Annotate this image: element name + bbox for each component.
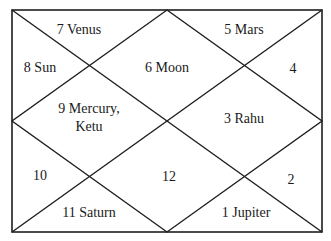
house-10-label: 10	[33, 167, 47, 184]
house-11-label: 11 Saturn	[62, 204, 116, 221]
house-1-label: 1 Jupiter	[222, 204, 271, 221]
house-12-label: 12	[162, 168, 176, 185]
house-9-label-line1: 9 Mercury,	[58, 100, 119, 117]
house-7-label: 7 Venus	[57, 21, 101, 38]
horoscope-chart: 7 Venus 5 Mars 8 Sun 6 Moon 4 9 Mercury,…	[0, 0, 331, 241]
house-4-label: 4	[290, 60, 297, 77]
house-2-label: 2	[288, 171, 295, 188]
house-3-label: 3 Rahu	[224, 110, 264, 127]
house-9-label-line2: Ketu	[75, 118, 102, 135]
house-8-label: 8 Sun	[24, 59, 56, 76]
house-6-label: 6 Moon	[145, 59, 189, 76]
house-5-label: 5 Mars	[224, 21, 263, 38]
chart-grid-lines	[0, 0, 331, 241]
